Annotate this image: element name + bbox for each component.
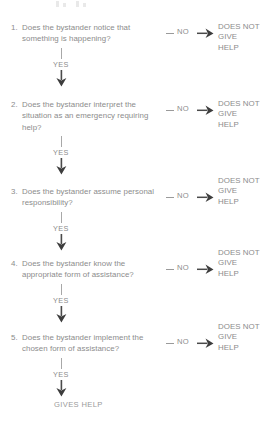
question-3: 3. Does the bystander assume personal re… <box>11 186 163 209</box>
branch-line <box>166 197 174 198</box>
no-branch-5: NO DOES NOT GIVE HELP <box>166 332 268 368</box>
question-number: 4. <box>11 258 22 269</box>
question-4: 4. Does the bystander know the appropria… <box>11 258 163 281</box>
no-label: NO <box>177 263 189 272</box>
arrow-down-icon <box>55 380 68 397</box>
no-label: NO <box>177 191 189 200</box>
connector-line <box>61 358 62 369</box>
outcome-does-not-give-help: DOES NOT GIVE HELP <box>218 99 268 131</box>
question-number: 3. <box>11 186 22 197</box>
branch-line <box>166 110 174 111</box>
outcome-does-not-give-help: DOES NOT GIVE HELP <box>218 322 268 354</box>
outcome-does-not-give-help: DOES NOT GIVE HELP <box>218 248 268 280</box>
connector-line <box>61 48 62 59</box>
question-text: Does the bystander notice that something… <box>22 22 163 45</box>
question-number: 1. <box>11 22 22 33</box>
flowchart: 1. Does the bystander notice that someth… <box>0 0 268 429</box>
yes-label: YES <box>53 60 69 69</box>
question-number: 2. <box>11 99 22 110</box>
arrow-down-icon <box>55 234 68 251</box>
question-5: 5. Does the bystander implement the chos… <box>11 332 163 355</box>
connector-line <box>61 284 62 295</box>
question-number: 5. <box>11 332 22 343</box>
outcome-does-not-give-help: DOES NOT GIVE HELP <box>218 22 268 54</box>
arrow-right-icon <box>197 26 214 39</box>
arrow-right-icon <box>197 262 214 275</box>
terminal-gives-help: GIVES HELP <box>54 400 103 409</box>
yes-label: YES <box>53 224 69 233</box>
question-text: Does the bystander assume personal respo… <box>22 186 163 209</box>
yes-label: YES <box>53 148 69 157</box>
arrow-down-icon <box>55 70 68 87</box>
yes-label: YES <box>53 370 69 379</box>
no-label: NO <box>177 337 189 346</box>
no-label: NO <box>177 27 189 36</box>
arrow-down-icon <box>55 306 68 323</box>
branch-line <box>166 33 174 34</box>
no-branch-1: NO DOES NOT GIVE HELP <box>166 22 268 58</box>
question-text: Does the bystander implement the chosen … <box>22 332 163 355</box>
yes-label: YES <box>53 296 69 305</box>
outcome-does-not-give-help: DOES NOT GIVE HELP <box>218 176 268 208</box>
no-branch-2: NO DOES NOT GIVE HELP <box>166 99 268 135</box>
arrow-right-icon <box>197 336 214 349</box>
question-2: 2. Does the bystander interpret the situ… <box>11 99 163 133</box>
arrow-right-icon <box>197 190 214 203</box>
connector-line <box>61 212 62 223</box>
question-text: Does the bystander know the appropriate … <box>22 258 163 281</box>
question-1: 1. Does the bystander notice that someth… <box>11 22 163 45</box>
question-text: Does the bystander interpret the situati… <box>22 99 163 133</box>
connector-line <box>61 136 62 147</box>
no-branch-4: NO DOES NOT GIVE HELP <box>166 258 268 294</box>
branch-line <box>166 269 174 270</box>
arrow-right-icon <box>197 103 214 116</box>
no-branch-3: NO DOES NOT GIVE HELP <box>166 186 268 222</box>
branch-line <box>166 343 174 344</box>
arrow-down-icon <box>55 158 68 175</box>
no-label: NO <box>177 104 189 113</box>
